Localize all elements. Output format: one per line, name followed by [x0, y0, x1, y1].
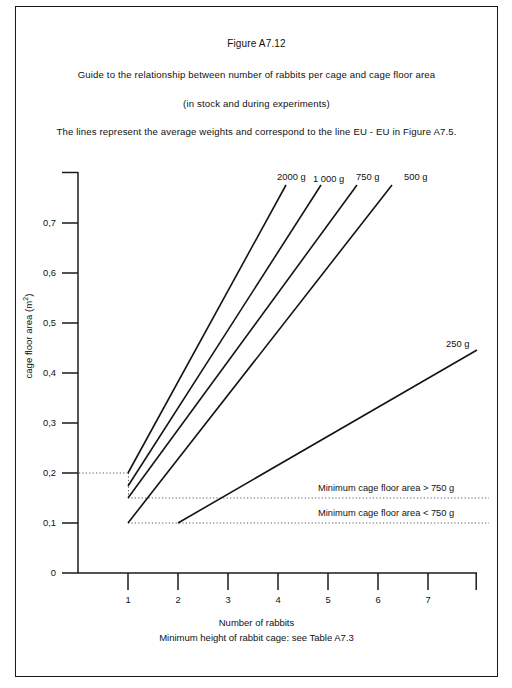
series-line-250g — [178, 350, 477, 523]
x-tick-label-5: 5 — [318, 594, 338, 605]
y-tick-label-01: 0,1 — [16, 517, 56, 528]
x-tick-label-1: 1 — [118, 594, 138, 605]
y-tick-label-03: 0,3 — [16, 417, 56, 428]
y-tick-marks — [62, 223, 78, 573]
series-line-750g — [128, 185, 357, 498]
series-label-500g: 500 g — [404, 171, 427, 182]
series-line-1000g — [128, 185, 321, 486]
plot-canvas — [0, 0, 512, 688]
x-tick-label-6: 6 — [368, 594, 388, 605]
series-line-500g — [128, 185, 392, 523]
series-label-1000g: 1 000 g — [313, 173, 344, 184]
zone-label-below-750g: Minimum cage floor area < 750 g — [318, 508, 454, 518]
x-tick-label-7: 7 — [418, 594, 438, 605]
figure-a7-12: Figure A7.12 Guide to the relationship b… — [0, 0, 512, 688]
series-label-2000g: 2000 g — [277, 171, 306, 182]
x-tick-label-4: 4 — [268, 594, 288, 605]
series-label-250g: 250 g — [446, 338, 469, 349]
y-axis-title: cage floor area (m2) — [22, 261, 34, 411]
y-tick-label-02: 0,2 — [16, 467, 56, 478]
series-line-2000g — [128, 185, 286, 473]
y-axis-title-exponent: 2 — [22, 297, 29, 301]
x-tick-label-3: 3 — [218, 594, 238, 605]
y-axis-title-text: cage floor area (m — [23, 301, 34, 379]
x-axis-title: Number of rabbits — [16, 617, 497, 628]
series-label-750g: 750 g — [356, 171, 379, 182]
plot-area: 0 0,1 0,2 0,3 0,4 0,5 0,6 0,7 1 2 3 4 5 … — [0, 0, 512, 688]
zone-label-above-750g: Minimum cage floor area > 750 g — [318, 483, 454, 493]
x-tick-label-2: 2 — [168, 594, 188, 605]
x-axis-note: Minimum height of rabbit cage: see Table… — [16, 632, 497, 643]
y-tick-label-0: 0 — [16, 567, 56, 578]
y-tick-label-07: 0,7 — [16, 217, 56, 228]
y-axis-title-tail: ) — [23, 294, 34, 297]
x-tick-marks — [128, 573, 428, 590]
